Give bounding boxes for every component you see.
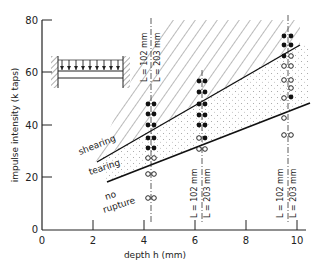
x-tick-10: 10 xyxy=(291,235,304,246)
length-label-102: L = 102 mm xyxy=(276,168,285,218)
length-label-102: L = 102 mm xyxy=(190,168,199,218)
y-tick-40: 40 xyxy=(25,120,38,131)
y-tick-0: 0 xyxy=(32,224,38,235)
x-tick-0: 0 xyxy=(39,235,45,246)
x-tick-8: 8 xyxy=(243,235,249,246)
x-tick-2: 2 xyxy=(90,235,96,246)
length-label-203: L = 203 mm xyxy=(203,168,212,218)
length-label-203: L = 203 mm xyxy=(153,32,162,82)
y-tick-20: 20 xyxy=(25,172,38,183)
clamped-beam-inset xyxy=(51,56,130,88)
x-tick-6: 6 xyxy=(192,235,198,246)
x-axis-label: depth h (mm) xyxy=(124,250,186,260)
length-label-102: L = 102 mm xyxy=(140,32,149,82)
x-tick-4: 4 xyxy=(141,235,147,246)
y-tick-80: 80 xyxy=(25,15,38,26)
chart: 0 20 40 60 80 0 2 4 6 8 10 depth h (mm) … xyxy=(0,0,323,267)
y-tick-60: 60 xyxy=(25,67,38,78)
length-label-203: L = 203 mm xyxy=(289,168,298,218)
y-axis-label: impulse intensity (k taps) xyxy=(10,68,20,183)
